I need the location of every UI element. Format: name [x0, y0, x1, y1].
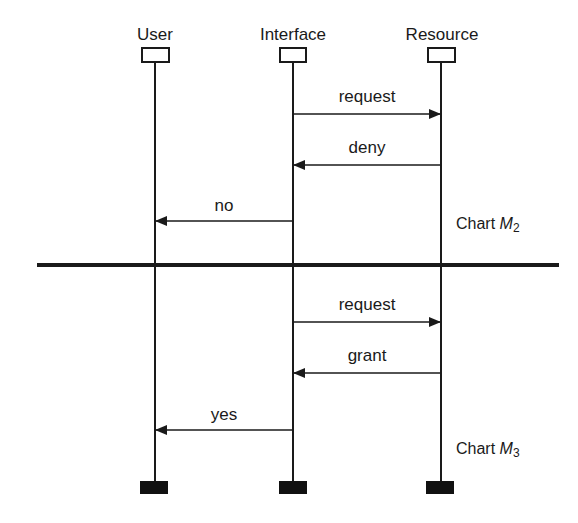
resource-head-box: [428, 48, 455, 62]
chart-label-m3-sub: 3: [513, 446, 520, 460]
message-label-grant: grant: [348, 347, 387, 364]
user-end-box: [140, 481, 168, 494]
actor-label-user: User: [137, 26, 173, 43]
interface-end-box: [279, 481, 307, 494]
chart-label-m2-sub: 2: [513, 221, 520, 235]
chart-label-m2: Chart M2: [456, 216, 520, 234]
chart-label-m3-prefix: Chart: [456, 440, 500, 457]
actor-label-interface: Interface: [260, 26, 326, 43]
user-head-box: [142, 48, 169, 62]
message-label-yes: yes: [211, 406, 237, 423]
message-label-request-1: request: [339, 88, 396, 105]
actor-label-resource: Resource: [406, 26, 479, 43]
chart-label-m2-var: M: [500, 215, 513, 232]
chart-label-m3-var: M: [500, 440, 513, 457]
message-label-request-2: request: [339, 296, 396, 313]
resource-end-box: [426, 481, 454, 494]
message-label-no: no: [215, 197, 234, 214]
sequence-diagram: User Interface Resource request deny no …: [0, 0, 578, 523]
chart-label-m2-prefix: Chart: [456, 215, 500, 232]
chart-label-m3: Chart M3: [456, 441, 520, 459]
message-label-deny: deny: [349, 139, 386, 156]
interface-head-box: [280, 48, 306, 62]
